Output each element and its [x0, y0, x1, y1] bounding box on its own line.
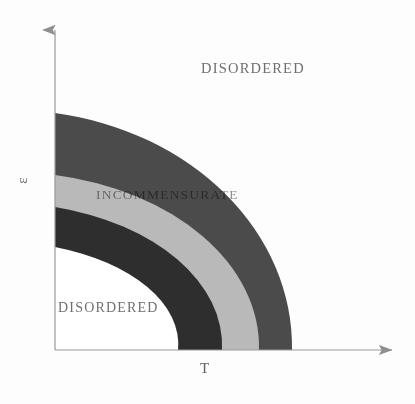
region-label-disordered-bottom: DISORDERED — [58, 300, 159, 316]
region-label-disordered-top: DISORDERED — [201, 60, 305, 77]
phase-diagram-figure: DISORDERED INCOMMENSURATE DISORDERED T ε — [0, 0, 415, 404]
y-axis-label: ε — [14, 177, 31, 183]
region-label-incommensurate: INCOMMENSURATE — [96, 187, 239, 203]
x-axis-label: T — [200, 360, 209, 377]
